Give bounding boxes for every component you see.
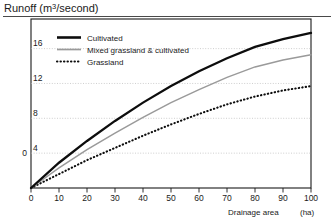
xtick-label-50: 50 [166, 193, 176, 203]
chart-background [0, 0, 334, 223]
chart-title-tail: /second) [56, 2, 98, 14]
ytick-label-8: 8 [33, 108, 38, 118]
xtick-label-30: 30 [110, 193, 120, 203]
xtick-label-100: 100 [304, 193, 318, 203]
xtick-label-80: 80 [250, 193, 260, 203]
xtick-label-20: 20 [82, 193, 92, 203]
xtick-label-90: 90 [278, 193, 288, 203]
legend-label-grassland: Grassland [87, 58, 123, 67]
xtick-label-60: 60 [194, 193, 204, 203]
xtick-label-40: 40 [138, 193, 148, 203]
ytick-label-0: 0 [22, 148, 27, 158]
runoff-drainage-area-chart: Runoff (m3/second) 0 4 8 12 16 0 10 20 3… [0, 0, 334, 223]
legend-label-mixed: Mixed grassland & cultivated [87, 46, 189, 55]
xtick-label-70: 70 [222, 193, 232, 203]
ytick-label-16: 16 [33, 38, 43, 48]
x-axis-unit: (ha) [300, 208, 315, 217]
chart-title-main: Runoff (m [4, 2, 52, 14]
xtick-label-0: 0 [29, 193, 34, 203]
ytick-label-4: 4 [33, 143, 38, 153]
chart-title: Runoff (m3/second) [4, 2, 98, 15]
x-axis-label: Drainage area [228, 208, 279, 217]
ytick-label-12: 12 [33, 73, 43, 83]
legend-label-cultivated: Cultivated [87, 34, 123, 43]
xtick-label-10: 10 [54, 193, 64, 203]
